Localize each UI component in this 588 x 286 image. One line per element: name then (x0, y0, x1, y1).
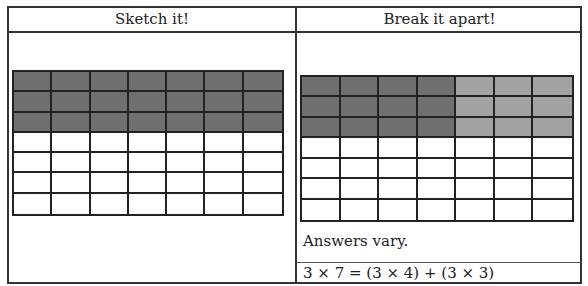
shaded-grid-cell (91, 72, 129, 92)
grid-cell (129, 153, 167, 173)
shaded-grid-cell (244, 113, 282, 133)
shaded-grid-cell (129, 72, 167, 92)
grid-cell (129, 173, 167, 193)
grid-cell (91, 153, 129, 173)
grid-cell (495, 138, 534, 158)
shaded-grid-cell (495, 97, 534, 117)
grid-cell (205, 133, 243, 153)
grid-cell (456, 159, 495, 179)
grid-cell (302, 179, 341, 199)
grid-cell (495, 179, 534, 199)
grid-cell (456, 200, 495, 220)
shaded-grid-cell (167, 92, 205, 112)
shaded-grid-cell (379, 118, 418, 138)
grid-cell (167, 194, 205, 214)
grid-cell (533, 138, 572, 158)
grid-cell (14, 194, 52, 214)
grid-cell (341, 138, 380, 158)
shaded-grid-cell (341, 97, 380, 117)
grid-cell (418, 179, 457, 199)
shaded-grid-cell (495, 118, 534, 138)
grid-cell (167, 153, 205, 173)
answers-vary-note: Answers vary. (303, 232, 408, 250)
grid-cell (14, 133, 52, 153)
shaded-grid-cell (302, 77, 341, 97)
grid-cell (244, 133, 282, 153)
grid-cell (341, 179, 380, 199)
grid-cell (533, 179, 572, 199)
shaded-grid-cell (205, 72, 243, 92)
grid-cell (456, 138, 495, 158)
grid-cell (379, 159, 418, 179)
answer-divider (297, 262, 582, 263)
shaded-grid-cell (14, 92, 52, 112)
grid-cell (14, 173, 52, 193)
shaded-grid-cell (91, 92, 129, 112)
grid-cell (129, 194, 167, 214)
shaded-grid-cell (52, 92, 90, 112)
shaded-grid-cell (244, 72, 282, 92)
grid-cell (205, 173, 243, 193)
grid-cell (456, 179, 495, 199)
shaded-grid-cell (129, 113, 167, 133)
shaded-grid-cell (91, 113, 129, 133)
grid-cell (91, 173, 129, 193)
grid-cell (341, 200, 380, 220)
shaded-grid-cell (302, 118, 341, 138)
header-sketch-it: Sketch it! (9, 8, 295, 31)
shaded-grid-cell (302, 97, 341, 117)
shaded-grid-cell (341, 77, 380, 97)
shaded-grid-cell (379, 77, 418, 97)
shaded-grid-cell (14, 113, 52, 133)
sketch-array-grid (12, 70, 284, 216)
distributive-equation: 3 × 7 = (3 × 4) + (3 × 3) (303, 264, 494, 282)
shaded-grid-cell (533, 97, 572, 117)
shaded-grid-cell (456, 118, 495, 138)
shaded-grid-cell (418, 97, 457, 117)
grid-cell (91, 133, 129, 153)
grid-cell (129, 133, 167, 153)
grid-cell (205, 153, 243, 173)
shaded-grid-cell (129, 92, 167, 112)
grid-cell (52, 153, 90, 173)
column-divider (295, 6, 297, 284)
grid-cell (533, 200, 572, 220)
grid-cell (379, 179, 418, 199)
shaded-grid-cell (52, 113, 90, 133)
shaded-grid-cell (456, 77, 495, 97)
grid-cell (418, 200, 457, 220)
grid-cell (52, 133, 90, 153)
grid-cell (244, 153, 282, 173)
shaded-grid-cell (205, 113, 243, 133)
grid-cell (167, 173, 205, 193)
grid-cell (495, 159, 534, 179)
grid-cell (533, 159, 572, 179)
grid-cell (52, 194, 90, 214)
grid-cell (91, 194, 129, 214)
grid-cell (495, 200, 534, 220)
grid-cell (379, 138, 418, 158)
shaded-grid-cell (205, 92, 243, 112)
grid-cell (244, 194, 282, 214)
grid-cell (302, 138, 341, 158)
shaded-grid-cell (533, 118, 572, 138)
shaded-grid-cell (379, 97, 418, 117)
shaded-grid-cell (456, 97, 495, 117)
shaded-grid-cell (167, 72, 205, 92)
grid-cell (244, 173, 282, 193)
shaded-grid-cell (167, 113, 205, 133)
shaded-grid-cell (244, 92, 282, 112)
shaded-grid-cell (495, 77, 534, 97)
grid-cell (302, 159, 341, 179)
shaded-grid-cell (14, 72, 52, 92)
shaded-grid-cell (52, 72, 90, 92)
grid-cell (52, 173, 90, 193)
grid-cell (302, 200, 341, 220)
grid-cell (341, 159, 380, 179)
grid-cell (205, 194, 243, 214)
grid-cell (418, 138, 457, 158)
shaded-grid-cell (418, 118, 457, 138)
grid-cell (167, 133, 205, 153)
grid-cell (379, 200, 418, 220)
shaded-grid-cell (341, 118, 380, 138)
